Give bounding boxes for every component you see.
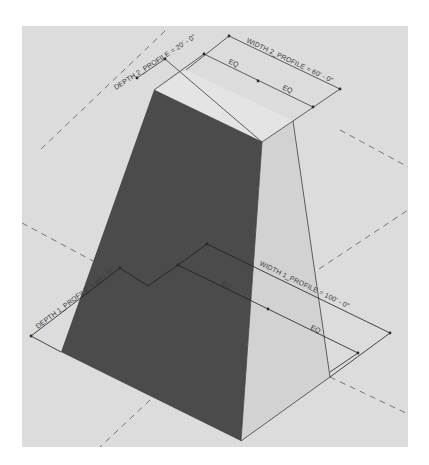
tapered-mass[interactable] bbox=[61, 70, 330, 441]
dimension-tick bbox=[312, 106, 315, 109]
dimension-tick bbox=[339, 88, 342, 91]
reference-plane-lower-left bbox=[100, 400, 150, 447]
eq-label: EQ bbox=[281, 84, 294, 96]
dimension-tick bbox=[228, 35, 231, 38]
dimension-tick bbox=[389, 332, 392, 335]
reference-plane-upper-right bbox=[340, 130, 410, 168]
witness-line bbox=[330, 353, 358, 372]
witness-line bbox=[293, 89, 340, 121]
reference-plane-lower-right bbox=[330, 377, 408, 414]
dimension-tick bbox=[177, 264, 180, 267]
dimension-tick bbox=[203, 53, 206, 56]
eq-label: EQ bbox=[227, 58, 240, 70]
dimension-tick bbox=[267, 308, 270, 311]
isometric-mass-diagram: WIDTH 2_PROFILE = 60' - 0" EQ EQ DEPTH 2… bbox=[0, 0, 429, 465]
dimension-tick bbox=[30, 335, 33, 338]
width2-dimension-line[interactable] bbox=[229, 36, 340, 89]
reference-plane-mid-right bbox=[310, 210, 408, 275]
dimension-tick bbox=[119, 267, 122, 270]
dimension-tick bbox=[257, 80, 260, 83]
reference-plane-mid-left bbox=[22, 223, 95, 262]
mass-dark-face[interactable] bbox=[61, 90, 262, 441]
width2-label: WIDTH 2_PROFILE = 60' - 0" bbox=[245, 37, 334, 85]
dimension-tick bbox=[357, 352, 360, 355]
dimension-tick bbox=[206, 243, 209, 246]
witness-line bbox=[330, 333, 390, 377]
